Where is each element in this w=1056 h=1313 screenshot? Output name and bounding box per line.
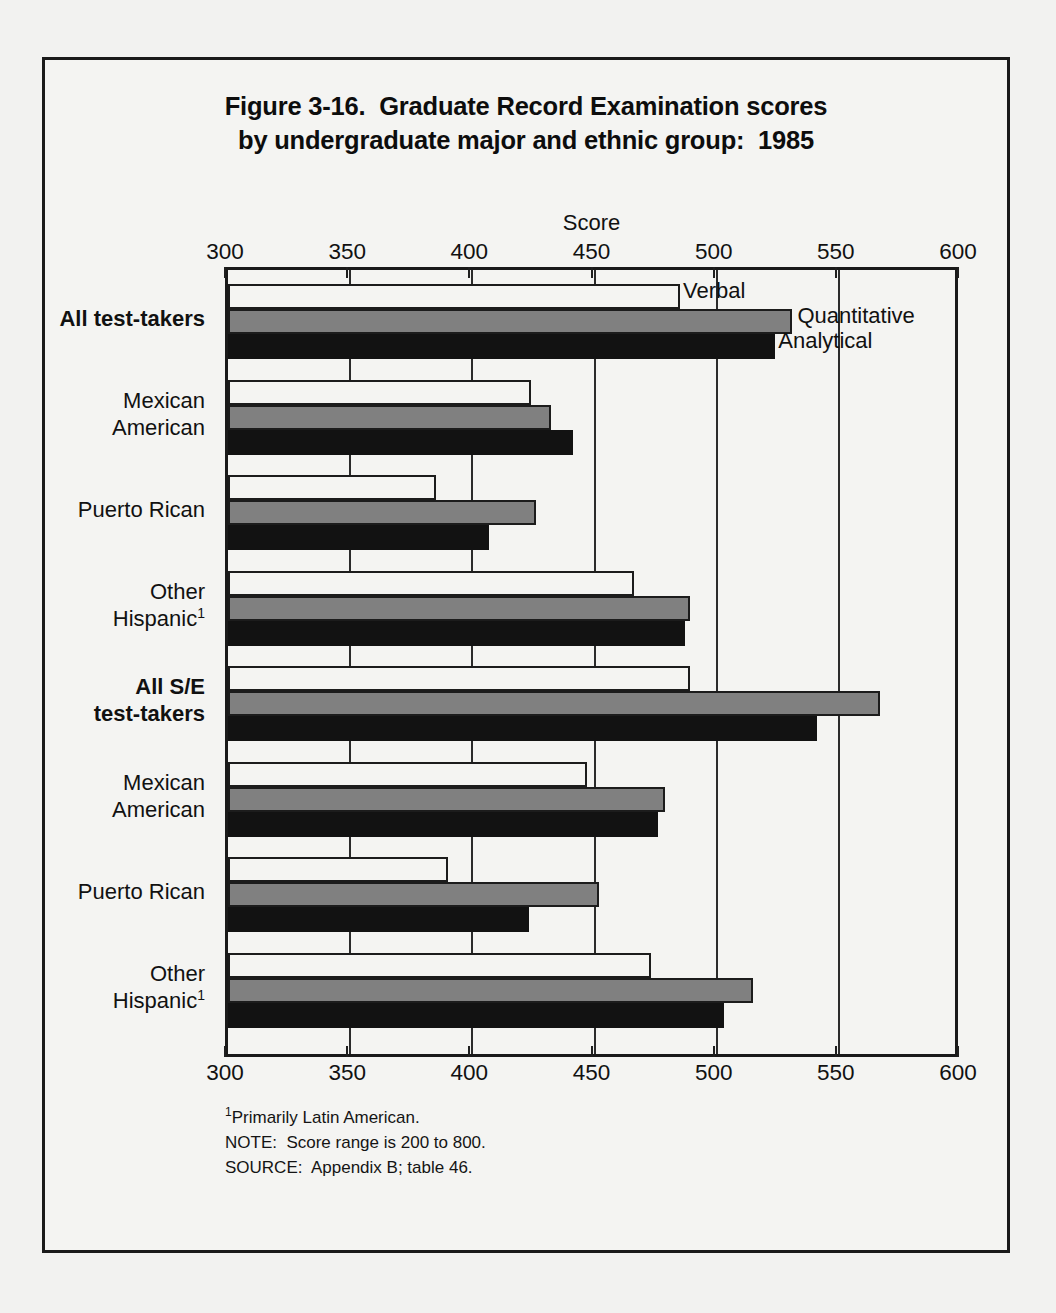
bar-verbal[interactable] (228, 475, 436, 500)
category-label-line: Puerto Rican (51, 878, 205, 905)
bar-track (228, 475, 955, 500)
bar-group (228, 475, 955, 550)
bar-track (228, 787, 955, 812)
bar-analytical[interactable] (228, 525, 489, 550)
x-tick-label-600: 600 (939, 239, 977, 265)
bar-quantitative[interactable] (228, 882, 599, 907)
bar-analytical[interactable] (228, 430, 573, 455)
tickmark-top-400 (468, 267, 470, 278)
bar-group (228, 666, 955, 741)
bar-track (228, 596, 955, 621)
x-tick-label-300: 300 (206, 1060, 244, 1086)
tickmark-bot-350 (346, 1046, 348, 1057)
footnote-1: 1Primarily Latin American. (225, 1106, 486, 1131)
bar-track (228, 812, 955, 837)
bar-group (228, 571, 955, 646)
plot-inner (228, 270, 955, 1054)
bar-track (228, 691, 955, 716)
figure-title: Figure 3-16. Graduate Record Examination… (45, 90, 1007, 157)
bar-track (228, 1003, 955, 1028)
category-label-line: Mexican (51, 769, 205, 796)
x-tick-label-350: 350 (328, 239, 366, 265)
bar-analytical[interactable] (228, 621, 685, 646)
bar-analytical[interactable] (228, 812, 658, 837)
bar-verbal[interactable] (228, 571, 634, 596)
footnote-1-text: Primarily Latin American. (232, 1108, 420, 1127)
plot-area (225, 267, 958, 1057)
tickmark-bot-400 (468, 1046, 470, 1057)
bar-group (228, 380, 955, 455)
x-tick-label-400: 400 (451, 1060, 489, 1086)
tickmark-top-600 (957, 267, 959, 278)
category-label: All test-takers (51, 305, 219, 332)
bar-track (228, 978, 955, 1003)
bar-quantitative[interactable] (228, 596, 690, 621)
bar-track (228, 430, 955, 455)
tickmark-bot-550 (835, 1046, 837, 1057)
legend-label-analytical: Analytical (778, 328, 872, 354)
bar-verbal[interactable] (228, 762, 587, 787)
bar-group (228, 953, 955, 1028)
bar-analytical[interactable] (228, 907, 529, 932)
bar-quantitative[interactable] (228, 978, 753, 1003)
category-label: All S/Etest-takers (51, 673, 219, 728)
bar-track (228, 953, 955, 978)
x-tick-label-550: 550 (817, 1060, 855, 1086)
bar-track (228, 716, 955, 741)
category-label-line: test-takers (51, 700, 205, 727)
tickmark-top-550 (835, 267, 837, 278)
x-tick-label-300: 300 (206, 239, 244, 265)
bar-track (228, 405, 955, 430)
category-footnote-marker: 1 (197, 987, 205, 1003)
legend-label-quantitative: Quantitative (797, 303, 914, 329)
bar-group (228, 762, 955, 837)
bar-quantitative[interactable] (228, 691, 880, 716)
tickmark-top-450 (591, 267, 593, 278)
footnote-marker: 1 (225, 1105, 232, 1119)
category-label: MexicanAmerican (51, 769, 219, 824)
bar-verbal[interactable] (228, 953, 651, 978)
category-label-line: American (51, 796, 205, 823)
bar-verbal[interactable] (228, 380, 531, 405)
bar-quantitative[interactable] (228, 405, 551, 430)
x-tick-label-450: 450 (573, 1060, 611, 1086)
x-axis-title: Score (225, 210, 958, 236)
x-tick-label-350: 350 (328, 1060, 366, 1086)
bar-verbal[interactable] (228, 857, 448, 882)
bar-analytical[interactable] (228, 716, 817, 741)
bar-verbal[interactable] (228, 284, 680, 309)
bar-analytical[interactable] (228, 1003, 724, 1028)
x-tick-label-450: 450 (573, 239, 611, 265)
figure-title-line-1: Figure 3-16. Graduate Record Examination… (45, 90, 1007, 124)
bar-track (228, 571, 955, 596)
bar-track (228, 666, 955, 691)
category-label-line: Hispanic1 (51, 987, 205, 1014)
tickmark-bot-500 (713, 1046, 715, 1057)
category-label-line: Puerto Rican (51, 496, 205, 523)
tickmark-bot-600 (957, 1046, 959, 1057)
bar-verbal[interactable] (228, 666, 690, 691)
bar-quantitative[interactable] (228, 787, 665, 812)
category-label: OtherHispanic1 (51, 578, 219, 633)
x-tick-label-500: 500 (695, 1060, 733, 1086)
figure-frame: Figure 3-16. Graduate Record Examination… (42, 57, 1010, 1253)
tickmark-top-500 (713, 267, 715, 278)
tickmark-top-300 (224, 267, 226, 278)
category-label-line: Mexican (51, 387, 205, 414)
bar-quantitative[interactable] (228, 500, 536, 525)
category-label-line: Other (51, 960, 205, 987)
category-label: OtherHispanic1 (51, 960, 219, 1015)
figure-title-line-2: by undergraduate major and ethnic group:… (45, 124, 1007, 158)
category-label-line: Hispanic1 (51, 605, 205, 632)
x-axis-tick-labels-top: 300350400450500550600 (225, 239, 958, 267)
x-tick-label-500: 500 (695, 239, 733, 265)
tickmark-top-350 (346, 267, 348, 278)
legend-label-verbal: Verbal (683, 278, 745, 304)
x-tick-label-550: 550 (817, 239, 855, 265)
category-label: MexicanAmerican (51, 387, 219, 442)
bar-track (228, 907, 955, 932)
bar-analytical[interactable] (228, 334, 775, 359)
category-label-line: Other (51, 578, 205, 605)
bar-quantitative[interactable] (228, 309, 792, 334)
bar-group (228, 857, 955, 932)
